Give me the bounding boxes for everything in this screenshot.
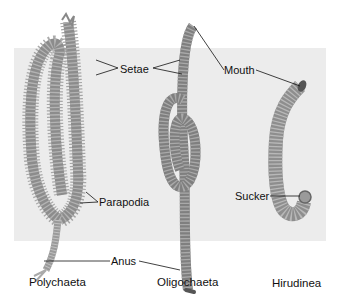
label-sucker: Sucker xyxy=(235,190,269,202)
oligochaeta-worm xyxy=(164,26,196,292)
caption-oligochaeta: Oligochaeta xyxy=(157,276,218,288)
hirudinea-worm xyxy=(275,79,311,214)
label-mouth: Mouth xyxy=(224,64,255,76)
label-anus: Anus xyxy=(111,255,136,267)
label-parapodia: Parapodia xyxy=(99,196,149,208)
label-setae: Setae xyxy=(120,63,149,75)
caption-polychaeta: Polychaeta xyxy=(29,276,86,288)
annelid-illustrations xyxy=(0,0,339,304)
polychaeta-worm xyxy=(30,14,78,281)
caption-hirudinea: Hirudinea xyxy=(272,277,321,289)
